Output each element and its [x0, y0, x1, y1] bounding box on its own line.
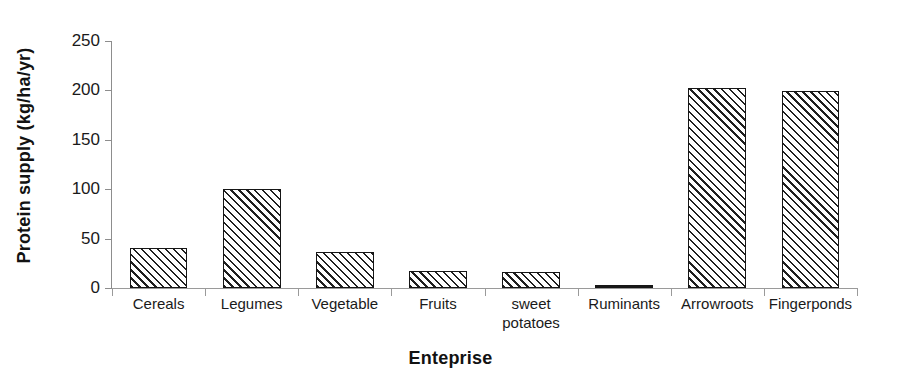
y-axis-tick: 50 [105, 239, 112, 240]
y-axis-tick-label: 150 [72, 130, 100, 150]
bar-vegetable [316, 252, 374, 288]
bar-ruminants [595, 285, 653, 288]
x-axis-category-label: sweet potatoes [485, 294, 578, 332]
x-axis-category-label: Fingerponds [764, 294, 857, 313]
y-axis-title: Protein supply (kg/ha/yr) [14, 47, 35, 263]
y-axis-tick-label: 250 [72, 31, 100, 51]
bar-fruits [409, 271, 467, 288]
x-axis-category-label: Fruits [391, 294, 484, 313]
x-axis-category-label: Vegetable [298, 294, 391, 313]
x-axis-tick [857, 288, 858, 296]
y-axis-tick-label: 100 [72, 179, 100, 199]
y-axis-tick: 100 [105, 189, 112, 190]
y-axis-tick: 200 [105, 90, 112, 91]
y-axis-tick: 150 [105, 140, 112, 141]
y-axis-tick-label: 200 [72, 80, 100, 100]
plot-area: 050100150200250 [112, 41, 857, 288]
bar-chart-figure: Protein supply (kg/ha/yr) 05010015020025… [0, 0, 901, 389]
y-axis-tick-label: 50 [81, 229, 100, 249]
x-axis-category-label: Arrowroots [671, 294, 764, 313]
bar-cereals [130, 248, 188, 288]
x-axis-category-label: Ruminants [578, 294, 671, 313]
x-axis-category-label: Cereals [112, 294, 205, 313]
bar-arrowroots [688, 88, 746, 288]
y-axis-title-wrapper: Protein supply (kg/ha/yr) [0, 0, 48, 310]
bar-legumes [223, 189, 281, 288]
x-axis-category-label: Legumes [205, 294, 298, 313]
x-axis-title: Enteprise [0, 348, 901, 369]
bar-sweet-potatoes [502, 272, 560, 288]
bar-fingerponds [782, 91, 840, 288]
y-axis-tick-label: 0 [91, 278, 100, 298]
y-axis-tick: 0 [105, 288, 112, 289]
y-axis-tick: 250 [105, 41, 112, 42]
